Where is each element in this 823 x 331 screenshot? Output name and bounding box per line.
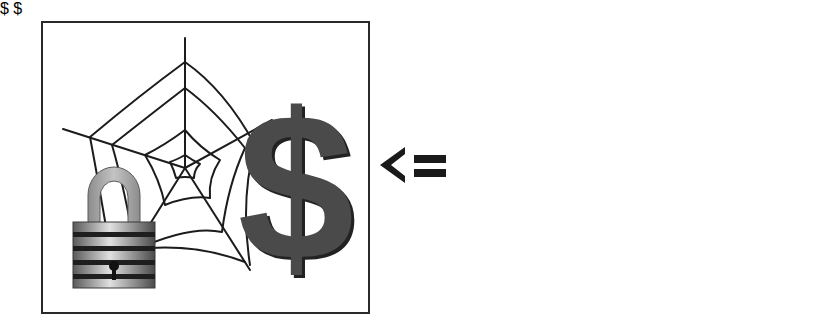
dollar-sign-icon: $ $ xyxy=(238,69,358,307)
diagram-canvas: $ $ xyxy=(0,0,823,331)
svg-text:$: $ xyxy=(238,69,355,304)
less-than-or-equal-operator xyxy=(380,147,446,183)
padlock-icon xyxy=(73,167,155,288)
left-panel: $ $ xyxy=(42,22,369,313)
